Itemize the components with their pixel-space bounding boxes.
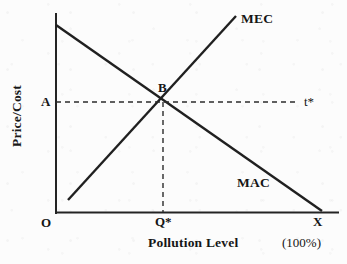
tax-level-label-tstar: t* xyxy=(304,95,314,108)
pollution-externality-figure: Price/Cost O A B Q* X t* MEC MAC Polluti… xyxy=(0,0,347,264)
y-axis-title-text: Price/Cost xyxy=(9,85,25,147)
x-axis-end-note: (100%) xyxy=(282,236,321,249)
origin-label: O xyxy=(41,216,51,229)
mac-curve xyxy=(56,25,322,211)
intersection-label-b: B xyxy=(158,81,167,94)
y-axis-title: Price/Cost xyxy=(6,78,28,154)
mac-curve-label: MAC xyxy=(237,176,270,190)
price-level-label-a: A xyxy=(41,95,50,108)
chart-canvas xyxy=(0,0,347,264)
quantity-level-label-qstar: Q* xyxy=(155,215,172,228)
x-axis-title: Pollution Level xyxy=(148,236,238,250)
mec-curve-label: MEC xyxy=(241,12,273,26)
mec-curve xyxy=(68,16,236,200)
x-axis-end-label: X xyxy=(313,215,322,228)
